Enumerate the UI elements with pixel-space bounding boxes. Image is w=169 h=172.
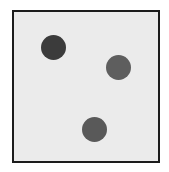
figure-canvas <box>0 0 169 172</box>
circle-dot-3 <box>82 117 107 142</box>
circle-dot-2 <box>106 55 131 80</box>
square-frame <box>12 10 160 163</box>
circle-dot-1 <box>41 35 66 60</box>
